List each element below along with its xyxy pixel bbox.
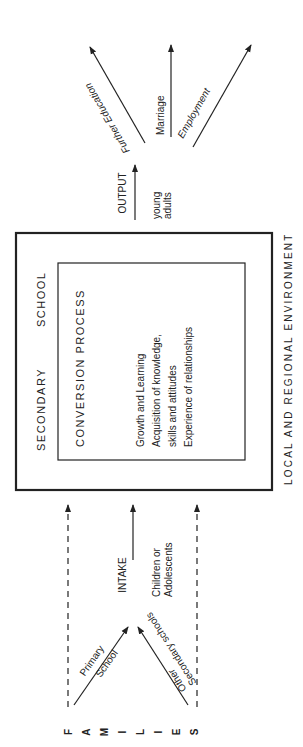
families-letter: E [171,728,182,735]
conversion-process-title: CONVERSION PROCESS [74,289,86,447]
svg-text:Employment: Employment [175,85,213,140]
environment-label: LOCAL AND REGIONAL ENVIRONMENT [283,232,294,485]
primary-school-label: Primary School [77,640,120,686]
output-subtitle-line1: young [151,192,162,219]
svg-text:Further Education: Further Education [82,81,131,156]
output-subtitle-line2: adults [162,192,173,219]
further-education-label: Further Education [82,81,131,156]
conversion-line: Acquisition of knowledge, [151,334,162,447]
conversion-line: skills and attitudes [167,365,178,447]
families-letter: S [189,728,200,735]
marriage-label: Marriage [155,95,166,135]
other-secondary-schools-label: Other Secondary schools [133,610,198,694]
families-letter: A [81,728,92,735]
diagram-canvas: F A M I L I E S Primary School Other Sec… [0,0,303,747]
families-letter: M [99,728,110,736]
secondary-school-title-word1: SECONDARY [35,368,47,451]
secondary-school-title-word2: SCHOOL [35,272,47,327]
intake-title: INTAKE [117,557,128,593]
rotated-diagram-group: F A M I L I E S Primary School Other Sec… [16,45,294,736]
families-letter: I [153,730,164,733]
intake-subtitle-line2: Adolescents [163,543,174,597]
families-letter: L [135,729,146,735]
conversion-line: Experience of relationships [183,327,194,447]
employment-label: Employment [175,85,213,140]
conversion-line: Growth and Learning [135,354,146,447]
families-label: F A M I L I E S [63,728,200,736]
intake-subtitle-line1: Children or [151,547,162,597]
output-title: OUTPUT [117,172,128,213]
families-letter: F [63,729,74,735]
families-letter: I [117,730,128,733]
diagram-svg: F A M I L I E S Primary School Other Sec… [0,0,303,747]
